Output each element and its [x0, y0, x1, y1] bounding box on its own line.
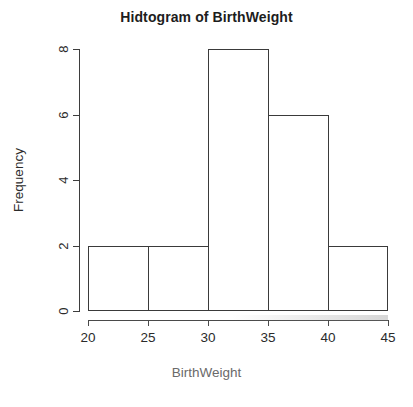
- histogram-bar: [88, 246, 149, 312]
- histogram-bar: [208, 49, 269, 311]
- y-tick-label-8: 8: [57, 42, 70, 56]
- y-tick-8: [73, 49, 79, 50]
- y-tick-2: [73, 246, 79, 247]
- x-tick-40: [328, 320, 329, 326]
- x-tick-label-40: 40: [308, 331, 348, 346]
- plot-area: [88, 49, 388, 311]
- histogram-bar: [148, 246, 209, 312]
- y-axis-line: [79, 49, 80, 312]
- x-tick-25: [148, 320, 149, 326]
- x-tick-label-20: 20: [68, 331, 108, 346]
- chart-title: Hidtogram of BirthWeight: [0, 9, 413, 25]
- x-tick-45: [388, 320, 389, 326]
- histogram-bar: [328, 246, 388, 312]
- y-tick-0: [73, 311, 79, 312]
- x-tick-label-45: 45: [368, 331, 408, 346]
- histogram-bar: [268, 115, 329, 312]
- x-axis-line: [88, 320, 389, 321]
- x-tick-label-35: 35: [248, 331, 288, 346]
- y-tick-4: [73, 180, 79, 181]
- x-tick-30: [208, 320, 209, 326]
- y-tick-label-0: 0: [57, 304, 70, 318]
- y-tick-label-4: 4: [57, 173, 70, 187]
- y-tick-6: [73, 115, 79, 116]
- x-tick-label-30: 30: [188, 331, 228, 346]
- x-tick-label-25: 25: [128, 331, 168, 346]
- x-tick-20: [88, 320, 89, 326]
- y-tick-label-6: 6: [57, 108, 70, 122]
- x-tick-35: [268, 320, 269, 326]
- y-axis-title: Frequency: [11, 148, 26, 212]
- y-tick-label-2: 2: [57, 239, 70, 253]
- x-axis-title: BirthWeight: [0, 365, 413, 380]
